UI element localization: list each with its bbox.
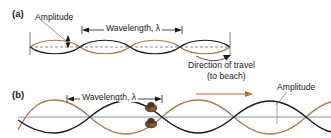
panel-a-tag: (a) bbox=[12, 9, 24, 19]
panel-b-direction-label-line1: Direction of travel bbox=[188, 61, 255, 70]
panel-a-amplitude-label: Amplitude bbox=[35, 13, 73, 22]
panel-b-wavelength-label: Wavelength, λ bbox=[80, 93, 138, 102]
panel-b-amplitude-label: Amplitude bbox=[277, 83, 315, 92]
panel-b-direction-label-line2: (to beach) bbox=[207, 72, 246, 81]
panel-b-tag: (b) bbox=[12, 90, 24, 100]
panel-a-wavelength-label: Wavelength, λ bbox=[104, 24, 162, 33]
